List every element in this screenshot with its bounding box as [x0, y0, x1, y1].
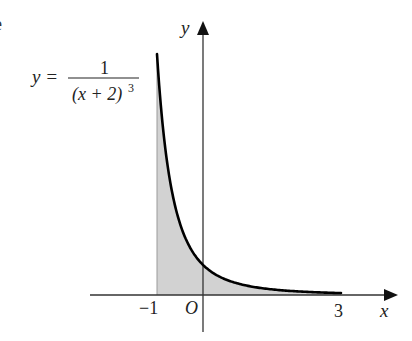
function-graph: y x O −1 3 y = 1 (x + 2) 3	[0, 0, 412, 341]
equation-label: y = 1 (x + 2) 3	[30, 58, 139, 105]
y-axis-label: y	[179, 17, 190, 38]
equation-numerator: 1	[100, 58, 109, 78]
x-axis-label: x	[379, 300, 389, 321]
shaded-area-region	[157, 54, 341, 295]
tick-label-neg1: −1	[139, 298, 158, 318]
tick-label-3: 3	[334, 301, 343, 321]
equation-exponent: 3	[128, 81, 134, 95]
equation-denominator: (x + 2)	[72, 84, 122, 105]
origin-label: O	[185, 298, 198, 318]
y-axis-arrow-icon	[197, 21, 209, 35]
equation-lhs: y =	[30, 66, 58, 87]
